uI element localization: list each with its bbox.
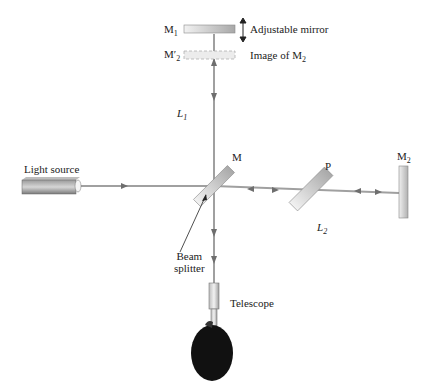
arrow-l1-down [211, 93, 217, 101]
label-telescope: Telescope [230, 298, 274, 309]
light-source-box [22, 177, 81, 194]
beam-splitter-pointer [180, 195, 206, 252]
arrow-source-right [121, 183, 128, 189]
label-m1: M1 [164, 24, 178, 38]
label-l1: L1 [177, 108, 187, 122]
label-beam-splitter: Beamsplitter [174, 250, 205, 274]
label-image-of-m2: Image of M2 [250, 50, 306, 64]
label-l2: L2 [317, 222, 327, 236]
arrow-down-1 [211, 229, 217, 237]
mirror-m1 [184, 25, 235, 33]
arrow-down-2 [211, 256, 217, 264]
telescope [209, 283, 219, 326]
mirror-m2-image [184, 51, 235, 59]
adjust-double-arrow-icon [240, 18, 246, 42]
label-m2-prime: M′2 [164, 49, 180, 63]
arrow-to-m2-right [375, 189, 382, 195]
label-p: P [325, 161, 331, 172]
beam-arrows [121, 58, 382, 264]
label-m-beam-splitter: M [232, 152, 242, 163]
label-light-source: Light source [24, 164, 79, 175]
mirror-m2 [399, 166, 408, 218]
observer-head [191, 321, 233, 381]
arrow-to-m2-left [354, 188, 361, 194]
label-m2: M2 [397, 151, 411, 165]
label-adjustable-mirror: Adjustable mirror [250, 24, 329, 35]
interferometer-diagram [0, 0, 427, 391]
